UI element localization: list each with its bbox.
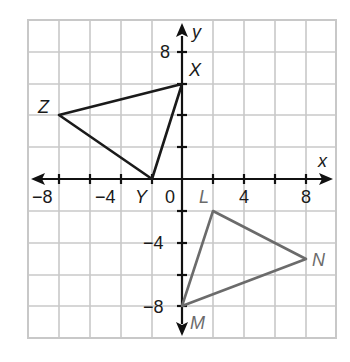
y-tick-label-8: 8 [160, 42, 170, 62]
vertex-label-n: N [312, 250, 326, 270]
y-axis-label: y [190, 22, 202, 42]
x-tick-label-m4: −4 [95, 187, 116, 207]
vertex-label-m: M [190, 313, 205, 333]
vertex-label-l: L [199, 187, 209, 207]
x-tick-label-8: 8 [301, 187, 311, 207]
x-axis-label: x [317, 151, 328, 171]
vertex-label-x: X [188, 60, 202, 80]
vertex-label-y: Y [135, 187, 149, 207]
y-tick-label-m8: −8 [143, 297, 164, 317]
x-tick-label-4: 4 [239, 187, 249, 207]
y-tick-label-m4: −4 [143, 233, 164, 253]
vertex-label-z: Z [37, 97, 50, 117]
x-tick-label-m8: −8 [32, 187, 53, 207]
coordinate-plane: y x −8 −4 0 4 8 8 −4 −8 X Z Y L N M [0, 0, 350, 362]
x-tick-label-0: 0 [165, 187, 175, 207]
y-axis-down-arrow-icon [176, 322, 188, 336]
y-axis-up-arrow-icon [176, 23, 188, 37]
